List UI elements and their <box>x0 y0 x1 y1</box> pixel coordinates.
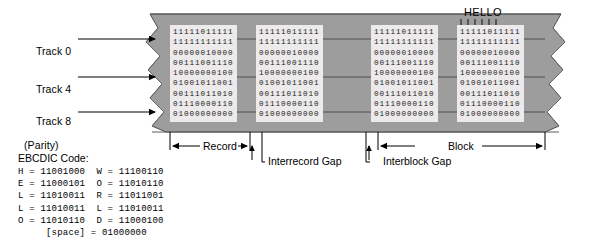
interblock-gap-annotation: Interblock Gap <box>383 155 451 167</box>
track-label-8-sub: (Parity) <box>24 139 71 151</box>
interrecord-gap-annotation: Interrecord Gap <box>268 155 342 167</box>
block-annotation: Block <box>448 140 474 152</box>
data-block-1: 11111011111 11111111111 00000010000 0011… <box>170 25 237 122</box>
data-block-2: 11111011111 11111111111 00000010000 0011… <box>256 25 323 122</box>
track-label-4-text: Track 4 <box>36 83 71 95</box>
data-block-4: 11111011111 11111111111 00000010000 0011… <box>457 25 524 122</box>
track-label-0-text: Track 0 <box>36 45 71 57</box>
hello-callout-label: HELLO <box>464 6 502 18</box>
record-annotation: Record <box>203 140 237 152</box>
ebcdic-legend: EBCDIC Code: H = 11001000 W = 11100110 E… <box>18 152 164 239</box>
track-label-8-text: Track 8 <box>36 115 71 127</box>
diagram-canvas: Track 0 Track 4 Track 8 (Parity) HELLO 1… <box>0 0 592 245</box>
track-label-0: Track 0 <box>24 33 71 69</box>
ebcdic-legend-title: EBCDIC Code: <box>18 152 164 164</box>
ebcdic-legend-rows: H = 11001000 W = 11100110 E = 11000101 O… <box>18 166 164 227</box>
data-block-3: 11111011111 11111111111 00000010000 0011… <box>371 25 438 122</box>
track-label-4: Track 4 <box>24 71 71 107</box>
ebcdic-space-row: [space] = 01000000 <box>18 227 164 239</box>
